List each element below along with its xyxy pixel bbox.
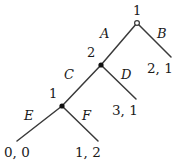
node-player-label-root: 1 xyxy=(133,4,141,17)
edge-label-e: E xyxy=(24,109,34,122)
payoff-d: 3, 1 xyxy=(112,104,138,118)
decision-node-lower xyxy=(59,103,64,108)
edges-group xyxy=(17,23,171,141)
edge-label-d: D xyxy=(121,68,131,81)
game-tree-canvas xyxy=(0,0,183,166)
payoff-f: 1, 2 xyxy=(75,146,101,160)
tree-edge-f xyxy=(62,106,98,141)
payoff-e: 0, 0 xyxy=(4,146,30,160)
game-tree-figure: ABCDEF1212, 13, 10, 01, 2 xyxy=(0,0,183,166)
payoff-b: 2, 1 xyxy=(147,62,173,76)
edge-label-b: B xyxy=(157,27,167,40)
edge-label-c: C xyxy=(64,68,74,81)
decision-node-mid xyxy=(98,62,103,67)
decision-node-root xyxy=(135,21,140,26)
node-player-label-lower: 1 xyxy=(49,87,57,100)
edge-label-f: F xyxy=(82,109,91,122)
edge-label-a: A xyxy=(100,27,109,40)
node-player-label-mid: 2 xyxy=(87,46,95,59)
